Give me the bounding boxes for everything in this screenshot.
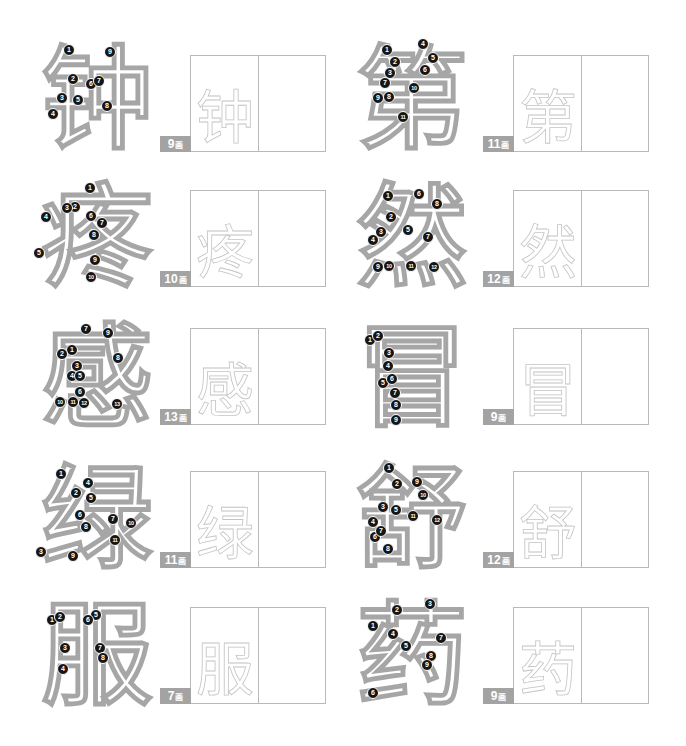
stroke-count: 13 (164, 410, 177, 424)
stroke-order-character: 第 (352, 44, 472, 156)
trace-character: 服 (193, 641, 257, 699)
practice-box: 舒 12画 (513, 471, 649, 568)
stroke-number-marker: 6 (74, 509, 86, 521)
stroke-number-marker: 5 (72, 94, 84, 106)
write-square[interactable] (259, 329, 326, 424)
trace-character: 绿 (193, 505, 257, 563)
trace-character: 药 (516, 641, 580, 699)
practice-box: 疼 10画 (190, 190, 326, 287)
trace-square[interactable]: 舒 (514, 472, 581, 567)
stroke-unit: 画 (502, 555, 510, 566)
trace-square[interactable]: 冒 (514, 329, 581, 424)
stroke-number-marker: 12 (78, 397, 90, 409)
stroke-number-marker: 3 (383, 347, 395, 359)
stroke-number-marker: 8 (382, 543, 394, 555)
stroke-number-marker: 3 (56, 92, 68, 104)
stroke-number-marker: 12 (431, 514, 443, 526)
stroke-number-marker: 8 (431, 198, 443, 210)
stroke-count: 11 (488, 137, 501, 151)
stroke-count: 9 (491, 410, 498, 424)
write-square[interactable] (582, 56, 649, 151)
stroke-number-marker: 2 (391, 478, 403, 490)
trace-character: 然 (516, 224, 580, 282)
stroke-count-badge: 7画 (160, 688, 191, 704)
stroke-number-marker: 1 (383, 462, 395, 474)
stroke-number-marker: 13 (111, 398, 123, 410)
stroke-number-marker: 2 (70, 487, 82, 499)
trace-square[interactable]: 感 (191, 329, 258, 424)
practice-box: 服 7画 (190, 607, 326, 704)
stroke-count-badge: 9画 (160, 136, 191, 152)
practice-box: 然 12画 (513, 190, 649, 287)
stroke-number-marker: 8 (101, 100, 113, 112)
stroke-count-badge: 11画 (483, 136, 514, 152)
stroke-number-marker: 10 (383, 260, 395, 272)
stroke-number-marker: 6 (367, 687, 379, 699)
write-square[interactable] (582, 472, 649, 567)
stroke-number-marker: 9 (104, 46, 116, 58)
stroke-number-marker: 10 (408, 82, 420, 94)
stroke-number-marker: 10 (54, 396, 66, 408)
stroke-unit: 画 (179, 274, 187, 285)
stroke-number-marker: 2 (54, 611, 66, 623)
stroke-count: 9 (491, 689, 498, 703)
stroke-number-marker: 3 (424, 598, 436, 610)
trace-character: 感 (193, 362, 257, 420)
stroke-number-marker: 1 (381, 44, 393, 56)
stroke-number-marker: 9 (390, 414, 402, 426)
trace-square[interactable]: 然 (514, 191, 581, 286)
stroke-number-marker: 7 (422, 231, 434, 243)
stroke-count-badge: 12画 (483, 552, 514, 568)
trace-square[interactable]: 第 (514, 56, 581, 151)
stroke-number-marker: 6 (419, 64, 431, 76)
stroke-number-marker: 9 (67, 550, 79, 562)
trace-square[interactable]: 药 (514, 608, 581, 703)
stroke-number-marker: 4 (82, 477, 94, 489)
stroke-number-marker: 2 (67, 73, 79, 85)
stroke-number-marker: 12 (428, 261, 440, 273)
trace-square[interactable]: 疼 (191, 191, 258, 286)
write-square[interactable] (582, 329, 649, 424)
stroke-count: 12 (487, 553, 500, 567)
stroke-count: 10 (164, 272, 177, 286)
stroke-count: 9 (168, 137, 175, 151)
stroke-number-marker: 11 (397, 111, 409, 123)
stroke-number-marker: 8 (112, 352, 124, 364)
trace-square[interactable]: 绿 (191, 472, 258, 567)
trace-character: 钟 (193, 89, 257, 147)
stroke-unit: 画 (179, 412, 187, 423)
practice-box: 冒 9画 (513, 328, 649, 425)
stroke-unit: 画 (502, 274, 510, 285)
trace-square[interactable]: 钟 (191, 56, 258, 151)
stroke-count: 12 (487, 272, 500, 286)
write-square[interactable] (259, 608, 326, 703)
stroke-number-marker: 7 (93, 75, 105, 87)
stroke-number-marker: 8 (97, 652, 109, 664)
stroke-number-marker: 8 (80, 521, 92, 533)
stroke-number-marker: 1 (63, 44, 75, 56)
stroke-order-character: 绿 (37, 463, 157, 575)
stroke-number-marker: 4 (367, 234, 379, 246)
stroke-count-badge: 12画 (483, 271, 514, 287)
stroke-number-marker: 4 (57, 663, 69, 675)
stroke-unit: 画 (498, 412, 506, 423)
stroke-number-marker: 9 (89, 254, 101, 266)
stroke-number-marker: 5 (400, 640, 412, 652)
stroke-count-badge: 10画 (160, 271, 191, 287)
stroke-number-marker: 1 (84, 182, 96, 194)
practice-box: 绿 11画 (190, 471, 326, 568)
practice-box: 药 9画 (513, 607, 649, 704)
stroke-count-badge: 9画 (483, 409, 514, 425)
stroke-number-marker: 5 (427, 52, 439, 64)
stroke-number-marker: 4 (47, 108, 59, 120)
stroke-number-marker: 7 (435, 632, 447, 644)
stroke-number-marker: 11 (405, 260, 417, 272)
write-square[interactable] (259, 472, 326, 567)
write-square[interactable] (259, 56, 326, 151)
write-square[interactable] (582, 608, 649, 703)
write-square[interactable] (259, 191, 326, 286)
trace-square[interactable]: 服 (191, 608, 258, 703)
stroke-number-marker: 7 (80, 323, 92, 335)
stroke-number-marker: 1 (55, 468, 67, 480)
write-square[interactable] (582, 191, 649, 286)
